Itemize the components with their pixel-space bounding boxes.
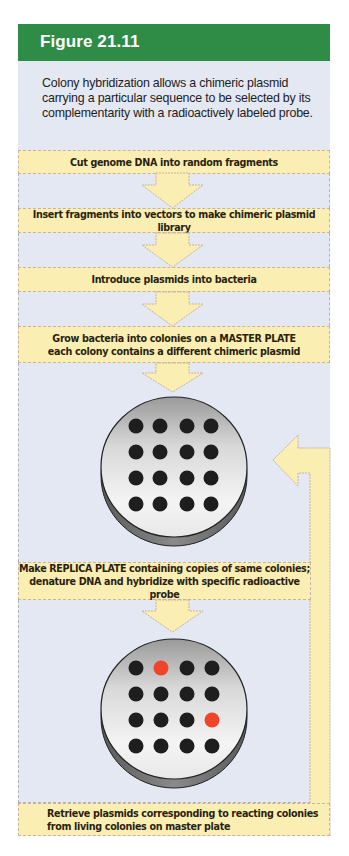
- figure-header: Figure 21.11: [18, 24, 330, 61]
- step-grow-master-plate: Grow bacteria into colonies on a MASTER …: [18, 326, 330, 363]
- step-text-line-1: Grow bacteria into colonies on a MASTER …: [52, 332, 295, 345]
- caption-panel: Colony hybridization allows a chimeric p…: [18, 61, 330, 150]
- step-retrieve-plasmids: Retrieve plasmids corresponding to react…: [18, 803, 330, 836]
- step-text: Cut genome DNA into random fragments: [70, 156, 278, 169]
- replica-plate: [100, 638, 250, 790]
- step-text-line-2: denature DNA and hybridize with specific…: [19, 575, 310, 601]
- down-arrow-icon: [142, 173, 204, 209]
- flow-diagram: Cut genome DNA into random fragments Ins…: [18, 150, 330, 836]
- down-arrow-icon: [142, 363, 204, 393]
- step-make-replica-plate: Make REPLICA PLATE containing copies of …: [18, 562, 311, 600]
- step-text: Introduce plasmids into bacteria: [91, 273, 256, 286]
- down-arrow-icon: [142, 600, 204, 633]
- step-introduce-plasmids: Introduce plasmids into bacteria: [18, 267, 330, 292]
- step-cut-genome: Cut genome DNA into random fragments: [18, 150, 330, 174]
- down-arrow-icon: [142, 233, 204, 268]
- step-text-line-2: each colony contains a different chimeri…: [48, 345, 300, 358]
- figure-caption: Colony hybridization allows a chimeric p…: [42, 76, 322, 121]
- figure-title: Figure 21.11: [40, 32, 139, 52]
- step-insert-fragments: Insert fragments into vectors to make ch…: [18, 208, 330, 233]
- down-arrow-icon: [142, 292, 204, 327]
- step-text: Insert fragments into vectors to make ch…: [19, 208, 329, 234]
- step-text-line-2: from living colonies on master plate: [47, 820, 230, 833]
- step-text-line-1: Retrieve plasmids corresponding to react…: [47, 807, 318, 820]
- reacting-colony: [205, 713, 220, 728]
- step-text-line-1: Make REPLICA PLATE containing copies of …: [19, 562, 310, 575]
- reacting-colony: [154, 661, 169, 676]
- master-plate: [100, 396, 250, 548]
